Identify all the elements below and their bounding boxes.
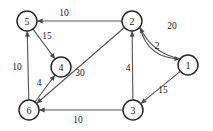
edge-1-to-2-weight-label: 2: [155, 41, 160, 51]
edge-6-to-5-arrowhead: [25, 31, 30, 37]
edge-2-to-1-weight-label: 20: [167, 21, 177, 31]
edge-3-to-2-arrowhead: [130, 31, 135, 37]
edge-5-to-4-arrowhead: [50, 53, 55, 59]
edge-3-to-6-arrowhead: [39, 108, 45, 113]
edge-1-to-3-weight-label: 15: [158, 85, 168, 95]
node-6[interactable]: 6: [19, 100, 39, 120]
edge-2-to-1: [140, 27, 180, 59]
edge-2-to-5-weight-label: 10: [59, 8, 69, 18]
directed-weighted-graph-figure: 123456 10151043020215410: [0, 0, 213, 131]
edge-6-to-4-arrowhead: [50, 75, 55, 81]
node-6-label: 6: [27, 105, 32, 116]
node-5-label: 5: [25, 16, 30, 27]
edge-6-to-5-weight-label: 10: [12, 62, 22, 72]
node-4-label: 4: [59, 62, 64, 73]
edge-3-to-6-weight-label: 10: [73, 115, 83, 125]
node-3-label: 3: [131, 105, 136, 116]
edge-6-to-4-weight-label: 4: [37, 78, 42, 88]
node-4[interactable]: 4: [51, 57, 71, 77]
node-3[interactable]: 3: [123, 100, 143, 120]
edge-6-to-5: [27, 31, 29, 100]
node-5[interactable]: 5: [17, 11, 37, 31]
graph-canvas: 123456 10151043020215410: [0, 0, 213, 131]
edge-5-to-4-weight-label: 15: [42, 31, 52, 41]
node-1-label: 1: [186, 60, 191, 71]
edge-3-to-2: [132, 31, 133, 100]
edge-3-to-2-weight-label: 4: [126, 63, 131, 73]
node-2-label: 2: [130, 16, 135, 27]
node-1[interactable]: 1: [178, 55, 198, 75]
node-2[interactable]: 2: [122, 11, 142, 31]
edge-2-to-6-weight-label: 30: [75, 68, 85, 78]
edge-2-to-5-arrowhead: [37, 19, 43, 24]
